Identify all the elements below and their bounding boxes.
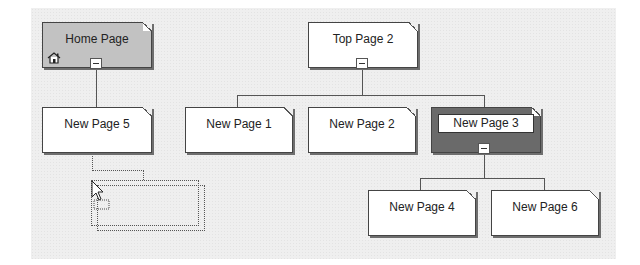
page-fold bbox=[409, 22, 418, 31]
connector bbox=[420, 178, 545, 179]
drag-connector bbox=[92, 170, 144, 171]
connector bbox=[484, 95, 485, 107]
page-label: New Page 5 bbox=[43, 117, 151, 131]
page-node-new-page-2[interactable]: New Page 2 bbox=[308, 107, 416, 153]
collapse-toggle[interactable] bbox=[90, 58, 102, 69]
page-label: New Page 3 bbox=[438, 114, 534, 133]
page-label: New Page 6 bbox=[492, 200, 598, 214]
page-fold bbox=[284, 107, 293, 116]
connector bbox=[237, 95, 485, 96]
drag-connector bbox=[143, 170, 144, 180]
page-node-new-page-1[interactable]: New Page 1 bbox=[185, 107, 293, 153]
connector bbox=[96, 68, 97, 107]
page-fold bbox=[467, 190, 476, 199]
page-fold bbox=[143, 22, 152, 31]
connector bbox=[484, 153, 485, 178]
collapse-toggle[interactable] bbox=[478, 143, 490, 154]
connector bbox=[362, 68, 363, 95]
drag-cursor-icon bbox=[91, 180, 113, 210]
page-label: Home Page bbox=[43, 32, 151, 46]
page-node-new-page-5[interactable]: New Page 5 bbox=[42, 107, 152, 153]
collapse-toggle[interactable] bbox=[356, 58, 368, 69]
page-fold bbox=[590, 190, 599, 199]
page-fold bbox=[143, 107, 152, 116]
page-label: New Page 1 bbox=[186, 117, 292, 131]
page-label: New Page 2 bbox=[309, 117, 415, 131]
page-node-new-page-4[interactable]: New Page 4 bbox=[368, 190, 476, 236]
page-fold bbox=[407, 107, 416, 116]
connector bbox=[544, 178, 545, 190]
page-label: New Page 4 bbox=[369, 200, 475, 214]
connector bbox=[237, 95, 238, 107]
connector bbox=[420, 178, 421, 190]
drag-connector bbox=[92, 154, 93, 171]
home-icon bbox=[47, 52, 61, 64]
page-node-new-page-6[interactable]: New Page 6 bbox=[491, 190, 599, 236]
page-label: Top Page 2 bbox=[309, 32, 417, 46]
